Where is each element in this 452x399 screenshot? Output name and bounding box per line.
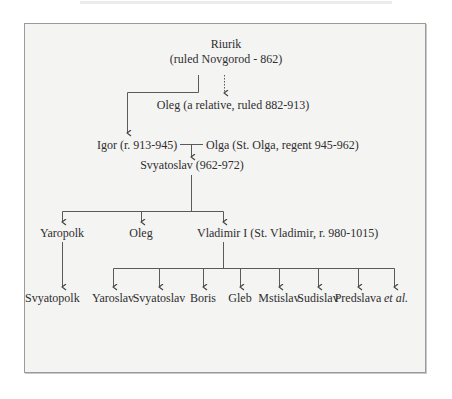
node-olga: Olga (St. Olga, regent 945-962) xyxy=(206,138,359,152)
node-vladimir: Vladimir I (St. Vladimir, r. 980-1015) xyxy=(197,226,378,240)
node-predslava: Predslava xyxy=(335,291,382,305)
node-riurik: Riurik xyxy=(211,37,242,51)
node-oleg-relative: Oleg (a relative, ruled 882-913) xyxy=(157,98,309,112)
node-svyatoslav: Svyatoslav (962-972) xyxy=(140,158,244,172)
node-mstislav: Mstislav xyxy=(258,291,299,305)
node-oleg: Oleg xyxy=(129,226,152,240)
node-igor: Igor (r. 913-945) xyxy=(97,138,177,152)
node-svyatopolk: Svyatopolk xyxy=(25,291,80,305)
node-yaroslav: Yaroslav xyxy=(92,291,134,305)
node-yaropolk: Yaropolk xyxy=(40,226,84,240)
node-svyatoslav-son: Svyatoslav xyxy=(133,291,186,305)
node-boris: Boris xyxy=(190,291,216,305)
node-gleb: Gleb xyxy=(228,291,251,305)
node-riurik-note: (ruled Novgorod - 862) xyxy=(170,52,282,66)
node-sudislav: Sudislav xyxy=(297,291,338,305)
node-et-al: et al. xyxy=(384,291,408,305)
